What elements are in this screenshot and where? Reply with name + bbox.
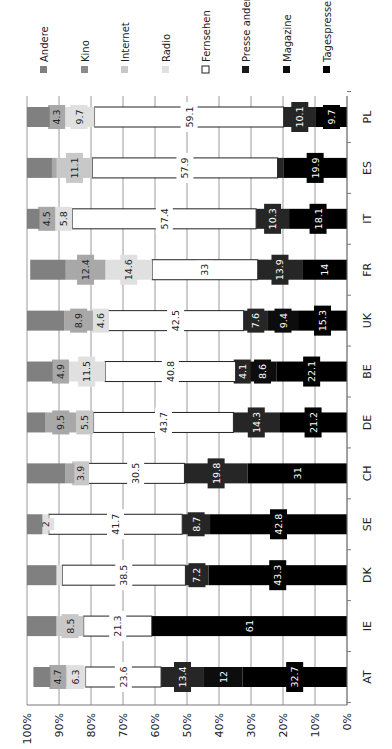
legend-swatch (40, 66, 47, 73)
segment-andere (27, 158, 52, 178)
value-tick-label: 0% (341, 713, 354, 730)
chart-bars: 32.71213.423.66.34.7AT6121.38.5IE43.37.2… (27, 102, 374, 692)
chart-legend: AndereKinoInternetRadioFernsehenPresse a… (39, 0, 333, 73)
value-tick-label: 20% (277, 713, 290, 737)
value-tick-label: 40% (213, 713, 226, 737)
data-label: 5.8 (58, 211, 69, 226)
bar-es: 19.957.911.1ES (27, 153, 374, 183)
data-label: 31 (292, 467, 303, 479)
bar-se: 42.88.741.72SE (27, 509, 374, 539)
category-label: UK (361, 312, 374, 328)
data-label: 3.9 (75, 466, 86, 481)
category-label: IE (361, 621, 374, 631)
data-label: 14 (319, 264, 330, 276)
data-label: 59.1 (184, 106, 195, 127)
data-label: 57.9 (179, 157, 190, 178)
legend-item-internet: Internet (120, 22, 131, 73)
data-label: 14.3 (251, 412, 262, 433)
data-label: 12.4 (80, 259, 91, 280)
segment-presse-andere (278, 158, 284, 178)
category-label: FR (361, 262, 374, 276)
bar-uk: 15.39.47.642.54.68.9UK (27, 306, 374, 336)
data-label: 12 (218, 671, 229, 683)
data-label: 10.3 (267, 208, 278, 229)
data-label: 4.1 (237, 364, 248, 379)
data-label: 19.8 (211, 463, 222, 484)
data-label: 9.5 (55, 415, 66, 430)
legend-swatch (162, 66, 169, 73)
legend-item-fernsehen: Fernsehen (201, 10, 212, 73)
data-label: 13.4 (177, 666, 188, 687)
segment-andere (27, 463, 65, 483)
category-label: SE (361, 517, 374, 531)
data-label: 22.1 (306, 361, 317, 382)
legend-label: Magazine (282, 14, 293, 62)
segment-andere (30, 260, 66, 280)
legend-label: Fernsehen (201, 10, 212, 62)
data-label: 11.1 (69, 157, 80, 178)
category-label: BE (361, 364, 374, 379)
bar-dk: 43.37.238.5DK (27, 560, 374, 590)
data-label: 4.7 (52, 669, 63, 684)
data-label: 43.7 (158, 412, 169, 433)
data-label: 8.7 (191, 517, 202, 532)
data-label: 10.1 (294, 106, 305, 127)
value-tick-label: 10% (309, 713, 322, 737)
segment-andere (27, 362, 53, 382)
legend-label: Radio (161, 34, 172, 62)
segment-kino (65, 463, 74, 483)
legend-item-tagespresse: Tagespresse (322, 1, 333, 73)
data-label: 4.5 (41, 211, 52, 226)
legend-swatch (323, 66, 330, 73)
data-label: 9.4 (278, 313, 289, 328)
data-label: 8.9 (73, 313, 84, 328)
legend-label: Kino (80, 40, 91, 62)
legend-item-kino: Kino (80, 40, 91, 73)
data-label: 19.9 (310, 157, 321, 178)
data-label: 21.2 (308, 412, 319, 433)
segment-andere (27, 311, 64, 331)
segment-radio (56, 565, 62, 585)
data-label: 43.3 (272, 565, 283, 586)
bar-it: 18.110.357.45.84.5IT (27, 204, 374, 234)
legend-item-presse-andere: Presse andere (241, 0, 252, 73)
value-tick-label: 100% (21, 713, 34, 744)
data-label: 57.4 (159, 208, 170, 229)
data-label: 18.1 (313, 208, 324, 229)
legend-swatch (202, 66, 209, 73)
legend-swatch (242, 66, 249, 73)
data-label: 14.6 (123, 259, 134, 280)
value-tick-label: 50% (181, 713, 194, 737)
data-label: 40.8 (165, 361, 176, 382)
chart-gridlines (27, 96, 347, 705)
bar-at: 32.71213.423.66.34.7AT (33, 662, 374, 692)
legend-label: Andere (39, 26, 50, 62)
data-label: 4.3 (51, 109, 62, 124)
category-label: AT (361, 670, 374, 684)
data-label: 4.6 (95, 313, 106, 328)
value-tick-label: 30% (245, 713, 258, 737)
data-label: 21.3 (112, 616, 123, 637)
bar-fr: 1413.93314.612.4FR (30, 255, 374, 285)
category-label: PL (361, 110, 374, 124)
data-label: 61 (244, 620, 255, 632)
data-label: 7.2 (191, 568, 202, 583)
category-label: DE (361, 415, 374, 430)
value-tick-label: 80% (85, 713, 98, 737)
legend-swatch (283, 66, 290, 73)
segment-andere (27, 209, 39, 229)
data-label: 42.5 (170, 310, 181, 331)
bar-ch: 3119.830.53.9CH (27, 458, 374, 488)
segment-kino (52, 158, 57, 178)
segment-andere (33, 667, 50, 687)
legend-swatch (121, 66, 128, 73)
segment-andere (27, 107, 50, 127)
value-tick-label: 60% (149, 713, 162, 737)
category-label: CH (361, 465, 374, 481)
data-label: 15.3 (317, 310, 328, 331)
legend-item-andere: Andere (39, 26, 50, 73)
data-label: 8.5 (65, 619, 76, 634)
data-label: 30.5 (130, 463, 141, 484)
legend-item-radio: Radio (161, 34, 172, 73)
data-label: 23.6 (118, 666, 129, 687)
